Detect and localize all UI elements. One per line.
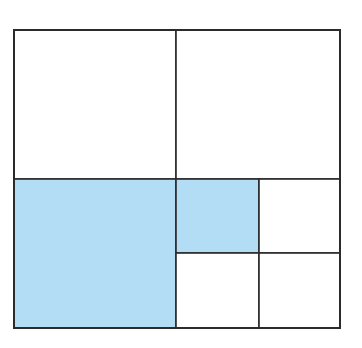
diagram-cells <box>14 30 340 328</box>
cell-top-right-quarter <box>176 30 340 179</box>
cell-bottom-right-sub-bottom-left <box>176 253 259 328</box>
cell-bottom-right-sub-bottom-right <box>259 253 340 328</box>
cell-bottom-left-quarter <box>14 179 176 328</box>
square-partition-diagram <box>0 0 362 348</box>
cell-bottom-right-sub-top-left <box>176 179 259 253</box>
cell-top-left-quarter <box>14 30 176 179</box>
cell-bottom-right-sub-top-right <box>259 179 340 253</box>
